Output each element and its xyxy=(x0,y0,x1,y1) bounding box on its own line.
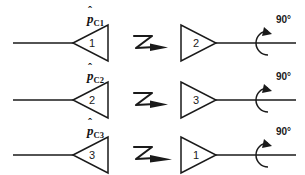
zigzag-arrow-icon xyxy=(134,147,172,163)
diagram-canvas: 1 2 90° 2 3 xyxy=(0,0,305,175)
phat-base: ˆp xyxy=(87,124,94,137)
rotation-arc-icon xyxy=(256,27,272,55)
phat-subscript: C1 xyxy=(94,18,104,28)
zigzag-arrow-icon xyxy=(134,36,168,51)
row-1-group: 1 2 90° xyxy=(13,14,296,61)
rotation-arc-icon xyxy=(256,139,272,167)
phat-label-row-2: ˆpC2 xyxy=(87,67,104,83)
output-triangle-number: 2 xyxy=(193,37,199,49)
hat-accent: ˆ xyxy=(88,117,92,129)
input-triangle-number: 3 xyxy=(89,149,95,161)
hat-accent: ˆ xyxy=(88,62,92,74)
phat-subscript: C2 xyxy=(94,75,104,85)
zigzag-arrow-icon xyxy=(134,93,168,108)
phat-base: ˆp xyxy=(87,69,94,82)
hat-accent: ˆ xyxy=(88,5,92,17)
rotation-arc-icon xyxy=(256,84,272,112)
rotation-label: 90° xyxy=(276,126,291,137)
output-triangle-number: 1 xyxy=(193,149,199,161)
input-triangle-number: 2 xyxy=(89,94,95,106)
row-2-group: 2 3 90° xyxy=(13,71,296,118)
input-triangle-number: 1 xyxy=(89,37,95,49)
diagram-svg: 1 2 90° 2 3 xyxy=(0,0,305,175)
phat-label-row-3: ˆpC3 xyxy=(87,122,104,138)
phat-base: ˆp xyxy=(87,12,94,25)
output-triangle-number: 3 xyxy=(193,94,199,106)
rotation-label: 90° xyxy=(276,14,291,25)
row-3-group: 3 1 90° xyxy=(13,126,296,173)
rotation-label: 90° xyxy=(276,71,291,82)
phat-subscript: C3 xyxy=(94,130,104,140)
phat-label-row-1: ˆpC1 xyxy=(87,10,104,26)
